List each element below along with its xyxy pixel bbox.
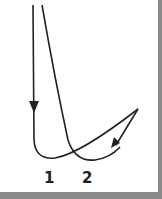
curve-2	[42, 5, 120, 160]
curve-1-label: 1	[44, 171, 54, 186]
frame-bottom-border	[0, 192, 162, 199]
frame-right-border	[158, 0, 162, 199]
curve-2-arrow-icon	[111, 137, 120, 148]
curves-diagram	[0, 0, 162, 199]
curve-1-arrow-icon	[29, 101, 39, 113]
curve-2-label: 2	[82, 171, 92, 186]
curve-2-return	[116, 109, 138, 145]
